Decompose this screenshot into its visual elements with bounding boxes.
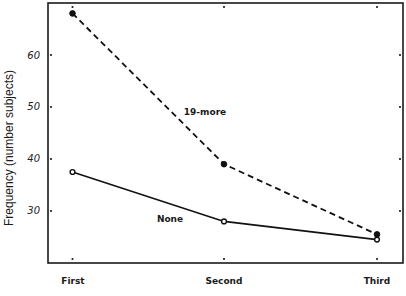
right-tick-dot	[399, 54, 401, 56]
y-tick-60: 60	[27, 50, 40, 61]
y-tick-40: 40	[27, 153, 40, 164]
y-tick-30: 30	[27, 205, 40, 216]
data-point-19-more	[374, 232, 380, 238]
series-lines	[70, 11, 380, 242]
left-tick-dot	[50, 54, 52, 56]
data-point-none	[70, 170, 75, 175]
series-label-none: None	[157, 214, 183, 224]
bottom-tick-dot	[223, 258, 225, 260]
right-tick-dot	[399, 106, 401, 108]
data-point-19-more	[221, 161, 227, 167]
data-point-none	[375, 237, 380, 242]
bottom-tick-dot	[376, 258, 378, 260]
top-tick-dot	[71, 6, 73, 8]
top-tick-dot	[223, 6, 225, 8]
y-axis-label: Frequency (number subjects)	[2, 70, 16, 226]
x-category-second: Second	[206, 276, 243, 286]
y-tick-50: 50	[27, 101, 40, 112]
top-tick-dot	[376, 6, 378, 8]
data-point-none	[222, 219, 227, 224]
y-axis-tick-labels: 60 50 40 30	[27, 50, 40, 216]
right-tick-dot	[399, 210, 401, 212]
bottom-tick-dot	[71, 258, 73, 260]
series-line-19-more	[73, 13, 378, 234]
left-tick-dot	[50, 210, 52, 212]
series-line-none	[73, 172, 378, 240]
x-category-first: First	[61, 276, 85, 286]
x-category-third: Third	[364, 276, 391, 286]
left-tick-dot	[50, 158, 52, 160]
line-chart: 60 50 40 30 Frequency (number subjects) …	[0, 0, 406, 296]
series-label-19-more: 19-more	[184, 107, 226, 117]
right-tick-dot	[399, 158, 401, 160]
data-point-19-more	[70, 11, 76, 17]
left-tick-dot	[50, 106, 52, 108]
x-axis-category-labels: First Second Third	[61, 276, 390, 286]
